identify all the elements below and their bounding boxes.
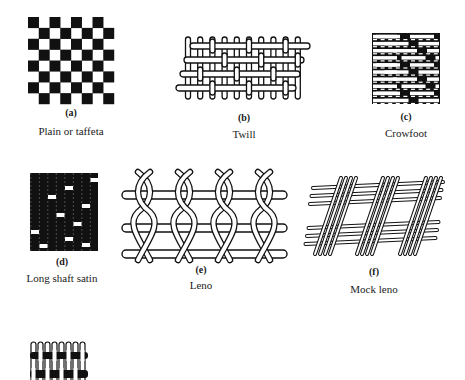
panel-d-caption: Long shaft satin	[12, 272, 112, 284]
panel-a-caption: Plain or taffeta	[21, 125, 121, 137]
panel-a-letter: (a)	[56, 107, 86, 119]
panel-b-caption: Twill	[204, 128, 284, 140]
panel-b-letter: (b)	[229, 112, 259, 124]
partial-weave-diagram	[30, 340, 90, 380]
crowfoot-weave-diagram	[372, 33, 440, 104]
leno-weave-diagram	[122, 170, 287, 262]
panel-f-letter: (f)	[359, 266, 389, 278]
plain-weave-diagram	[28, 17, 114, 104]
satin-weave-diagram	[30, 173, 98, 251]
panel-e-letter: (e)	[186, 264, 216, 276]
panel-f-caption: Mock leno	[334, 283, 414, 295]
panel-e-caption: Leno	[171, 279, 231, 291]
panel-c-letter: (c)	[391, 111, 421, 123]
panel-d-letter: (d)	[47, 256, 77, 268]
twill-weave-diagram	[176, 33, 312, 101]
panel-c-caption: Crowfoot	[366, 127, 446, 139]
mock-leno-weave-diagram	[303, 178, 451, 256]
